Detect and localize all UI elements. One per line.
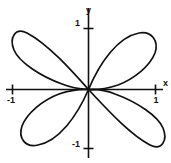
x-tick-label-positive-one: 1 xyxy=(153,95,158,105)
y-axis-label: y xyxy=(86,5,91,15)
y-tick-label-positive-one: 1 xyxy=(75,18,80,28)
curve-upper-lobe xyxy=(12,31,156,89)
x-axis-label: x xyxy=(163,78,168,88)
y-tick-label-negative-one: -1 xyxy=(72,139,80,149)
plot-canvas: x y -1 1 1 -1 xyxy=(0,0,171,163)
x-tick-label-negative-one: -1 xyxy=(7,95,15,105)
plot-figure: x y -1 1 1 -1 xyxy=(0,0,171,163)
curve-lower-lobe xyxy=(21,89,165,146)
